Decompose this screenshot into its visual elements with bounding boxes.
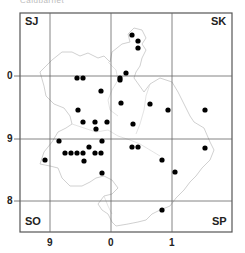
record-dot	[104, 119, 109, 124]
district-boundary	[72, 62, 160, 214]
x-tick-0: 0	[108, 237, 114, 248]
square-label-so: SO	[25, 215, 41, 227]
x-tick-9: 9	[47, 237, 53, 248]
record-dot	[130, 121, 135, 126]
record-dot	[80, 119, 85, 124]
record-dot	[159, 157, 164, 162]
record-dot	[172, 169, 177, 174]
record-dot	[80, 150, 85, 155]
record-dot	[98, 150, 103, 155]
square-label-sj: SJ	[25, 15, 38, 27]
record-dot	[86, 144, 91, 149]
record-dot	[99, 138, 104, 143]
record-dots	[42, 32, 207, 212]
record-dot	[92, 119, 97, 124]
record-dot	[62, 150, 67, 155]
record-dot	[135, 144, 140, 149]
record-dot	[135, 45, 140, 50]
record-dot	[81, 158, 86, 163]
record-dot	[56, 138, 61, 143]
record-dot	[129, 32, 134, 37]
county-boundary	[40, 28, 214, 226]
record-dot	[117, 75, 122, 80]
map-frame	[20, 13, 232, 232]
record-dot	[118, 100, 123, 105]
y-tick-0: 0	[7, 70, 13, 81]
record-dot	[202, 145, 207, 150]
record-dot	[147, 101, 152, 106]
record-dot	[135, 38, 140, 43]
y-tick-9: 9	[7, 133, 13, 144]
record-dot	[98, 88, 103, 93]
record-dot	[42, 157, 47, 162]
record-dot	[202, 107, 207, 112]
record-dot	[159, 207, 164, 212]
record-dot	[123, 70, 128, 75]
record-dot	[80, 75, 85, 80]
square-label-sp: SP	[212, 215, 227, 227]
record-dot	[74, 150, 79, 155]
y-tick-8: 8	[7, 195, 13, 206]
square-label-sk: SK	[211, 15, 226, 27]
record-dot	[75, 107, 80, 112]
record-dot	[93, 126, 98, 131]
grid-lines	[20, 13, 232, 232]
record-dot	[92, 150, 97, 155]
record-dot	[99, 170, 104, 175]
record-dot	[68, 150, 73, 155]
record-dot	[165, 107, 170, 112]
record-dot	[74, 75, 79, 80]
record-dot	[129, 144, 134, 149]
x-tick-1: 1	[169, 237, 175, 248]
